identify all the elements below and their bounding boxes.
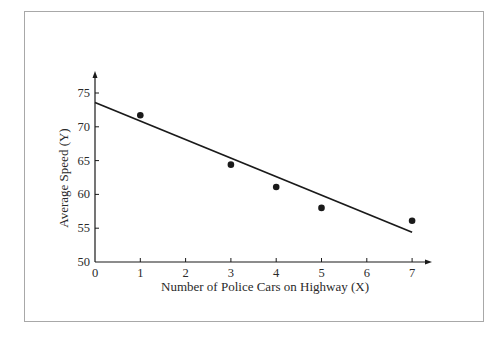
x-tick-label: 0 xyxy=(92,266,98,280)
regression-line xyxy=(95,102,412,232)
axes xyxy=(93,71,433,265)
x-tick-label: 4 xyxy=(273,266,280,280)
y-tick-label: 55 xyxy=(78,221,91,235)
x-tick-label: 5 xyxy=(318,266,324,280)
y-tick-label: 50 xyxy=(78,255,91,269)
y-tick-label: 75 xyxy=(78,86,91,100)
y-axis-label: Average Speed (Y) xyxy=(56,128,71,227)
data-point xyxy=(273,184,280,191)
x-tick-label: 3 xyxy=(228,266,234,280)
marks xyxy=(95,102,415,232)
y-axis-arrow xyxy=(93,71,98,78)
y-tick-label: 65 xyxy=(78,154,91,168)
y-tick-label: 70 xyxy=(78,120,91,134)
x-axis-arrow xyxy=(425,260,432,265)
x-axis-label: Number of Police Cars on Highway (X) xyxy=(161,279,369,294)
x-tick-label: 6 xyxy=(364,266,370,280)
data-point xyxy=(409,217,416,224)
x-tick-label: 1 xyxy=(137,266,143,280)
x-tick-label: 2 xyxy=(182,266,188,280)
x-tick-label: 7 xyxy=(409,266,415,280)
y-tick-label: 60 xyxy=(78,187,91,201)
data-point xyxy=(228,161,235,168)
data-point xyxy=(318,205,325,212)
data-point xyxy=(137,112,144,119)
